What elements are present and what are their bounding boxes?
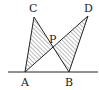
label-p: P: [49, 33, 57, 46]
label-d: D: [84, 2, 93, 15]
shaded-triangle-pdb: [53, 16, 88, 72]
geometry-figure: C D P A B: [0, 0, 99, 90]
label-a: A: [20, 76, 30, 89]
label-b: B: [65, 76, 73, 89]
label-c: C: [29, 2, 37, 15]
